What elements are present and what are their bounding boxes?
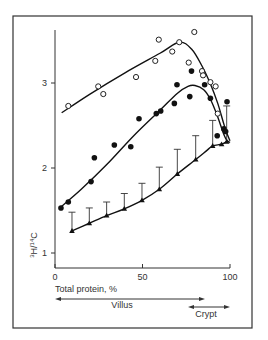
x-tick-label: 100 xyxy=(222,272,237,282)
crypt-label: Crypt xyxy=(195,309,217,319)
filled-circle-point xyxy=(174,82,180,88)
fit-curve xyxy=(72,142,227,231)
open-circle-point xyxy=(177,40,182,45)
open-circle-point xyxy=(66,103,71,108)
filled-circle-point xyxy=(58,205,64,211)
filled-circle-point xyxy=(92,155,98,161)
y-tick-label: 2 xyxy=(42,163,47,173)
filled-circle-point xyxy=(88,179,94,185)
filled-circle-point xyxy=(172,101,178,107)
y-axis-label: 3H/14C xyxy=(29,232,39,258)
x-tick-label: 0 xyxy=(52,272,57,282)
filled-circle-point xyxy=(189,68,195,74)
open-circle-point xyxy=(133,74,138,79)
filled-circle-point xyxy=(66,199,72,205)
x-tick-label: 50 xyxy=(137,272,147,282)
open-circle-point xyxy=(153,58,158,63)
x-axis-label: Total protein, % xyxy=(55,284,117,294)
filled-circle-point xyxy=(187,94,193,100)
filled-circle-point xyxy=(202,82,208,88)
figure-frame xyxy=(13,16,252,328)
open-circle-point xyxy=(208,80,213,85)
open-circle-point xyxy=(215,111,220,116)
x-ticks: 050100 xyxy=(52,264,237,282)
filled-circle-point xyxy=(223,129,229,135)
open-circle-point xyxy=(186,60,191,65)
data-points xyxy=(58,29,230,233)
open-circle-point xyxy=(170,49,175,54)
axes xyxy=(55,30,230,268)
filled-circle-point xyxy=(136,116,142,122)
open-circle-point xyxy=(156,37,161,42)
open-circle-point xyxy=(200,73,205,78)
error-bars xyxy=(68,106,230,231)
fit-curve xyxy=(62,85,230,206)
y-ticks: 123 xyxy=(42,78,55,258)
open-circle-point xyxy=(213,84,218,89)
filled-circle-point xyxy=(208,96,214,102)
open-circle-point xyxy=(101,91,106,96)
filled-circle-point xyxy=(214,133,220,139)
chart: 123 050100 3H/14C Total protein, % Villu… xyxy=(0,0,268,340)
filled-circle-point xyxy=(158,108,164,114)
filled-circle-point xyxy=(128,144,134,150)
y-tick-label: 3 xyxy=(42,78,47,88)
open-circle-point xyxy=(192,29,197,34)
filled-circle-point xyxy=(224,99,230,105)
filled-circle-point xyxy=(112,142,118,148)
y-tick-label: 1 xyxy=(42,248,47,258)
villus-label: Villus xyxy=(111,300,133,310)
open-circle-point xyxy=(96,84,101,89)
